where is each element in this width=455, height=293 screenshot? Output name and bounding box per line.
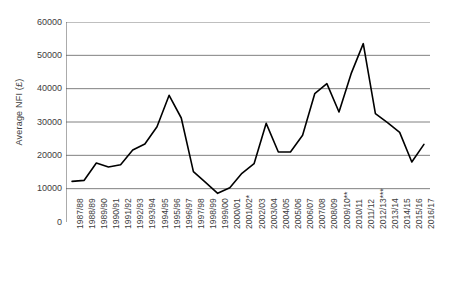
- x-tick-label: 1990/91: [112, 198, 121, 229]
- x-tick-label: 1993/94: [148, 198, 157, 229]
- x-tick-label: 1991/92: [124, 198, 133, 229]
- x-tick-label: 1989/90: [100, 198, 109, 229]
- x-tick-label: 2000/01: [233, 198, 242, 229]
- x-tick-label: 1997/98: [197, 198, 206, 229]
- x-tick-label: 2008/09: [330, 198, 339, 229]
- x-tick-label: 1995/96: [173, 198, 182, 229]
- chart-container: Average NFI (£) 010000200003000040000500…: [0, 0, 455, 293]
- x-tick-label: 2013/14: [391, 198, 400, 229]
- x-axis-tick-labels: 1987/881988/891989/901990/911991/921992/…: [0, 0, 455, 293]
- x-tick-label: 1999/00: [221, 198, 230, 229]
- x-tick-label: 2004/05: [282, 198, 291, 229]
- x-tick-label: 2012/13***: [379, 188, 388, 229]
- x-tick-label: 2007/08: [318, 198, 327, 229]
- x-tick-label: 1992/93: [136, 198, 145, 229]
- x-tick-label: 2014/15: [403, 198, 412, 229]
- x-tick-label: 2001/02*: [245, 195, 254, 229]
- x-tick-label: 2006/07: [306, 198, 315, 229]
- x-tick-label: 2015/16: [415, 198, 424, 229]
- x-tick-label: 2005/06: [294, 198, 303, 229]
- x-tick-label: 2009/10**: [343, 192, 352, 229]
- x-tick-label: 2002/03: [258, 198, 267, 229]
- x-tick-label: 2010/11: [355, 199, 364, 229]
- x-tick-label: 1987/88: [76, 198, 85, 229]
- x-tick-label: 1996/97: [185, 198, 194, 229]
- x-tick-label: 2003/04: [270, 198, 279, 229]
- x-tick-label: 1994/95: [161, 198, 170, 229]
- x-tick-label: 1988/89: [88, 198, 97, 229]
- x-tick-label: 2011/12: [367, 199, 376, 229]
- x-tick-label: 2016/17: [427, 198, 436, 229]
- x-tick-label: 1998/99: [209, 198, 218, 229]
